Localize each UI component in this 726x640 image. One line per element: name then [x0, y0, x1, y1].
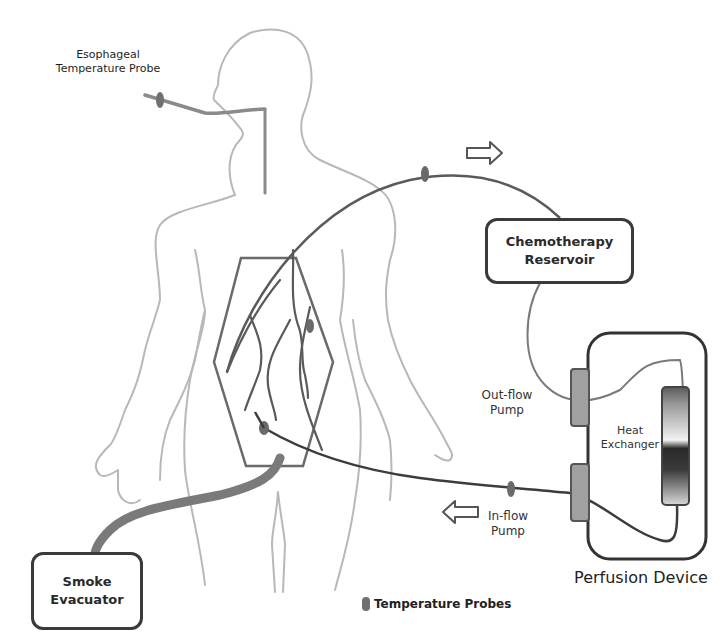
chemotherapy-reservoir-box[interactable]: Chemotherapy Reservoir	[485, 218, 634, 284]
inflow-pump-label-line2: Pump	[478, 524, 538, 539]
chemotherapy-reservoir-label: Chemotherapy Reservoir	[506, 233, 613, 268]
outflow-pump-label-line2: Pump	[472, 403, 542, 418]
esophageal-probe-label-line1: Esophageal	[38, 48, 178, 62]
outflow-pump-label: Out-flow Pump	[472, 388, 542, 418]
heat-exchanger-label-line1: Heat	[600, 424, 660, 438]
heat-exchanger-label-line2: Exchanger	[600, 438, 660, 452]
smoke-evacuator-line1: Smoke	[50, 573, 123, 591]
inflow-pump[interactable]	[571, 464, 589, 521]
outflow-pump-label-line1: Out-flow	[472, 388, 542, 403]
heat-exchanger-label: Heat Exchanger	[600, 424, 660, 452]
inflow-temperature-probe-marker	[507, 481, 515, 497]
outflow-direction-arrow	[467, 142, 502, 164]
chemo-reservoir-line2: Reservoir	[506, 251, 613, 269]
outflow-temperature-probe-marker	[421, 166, 429, 182]
temperature-probe-legend-icon	[362, 597, 370, 611]
inflow-pump-label-line1: In-flow	[478, 509, 538, 524]
esophageal-probe-label: Esophageal Temperature Probe	[38, 48, 178, 76]
chemo-reservoir-line1: Chemotherapy	[506, 233, 613, 251]
heat-exchanger[interactable]	[662, 387, 689, 505]
esophageal-temperature-probe-marker	[156, 92, 164, 108]
smoke-evacuator-label: Smoke Evacuator	[50, 573, 123, 608]
reservoir-to-pump-tubing	[528, 283, 684, 401]
smoke-evacuator-box[interactable]: Smoke Evacuator	[31, 552, 143, 630]
outflow-pump[interactable]	[571, 369, 589, 426]
legend: Temperature Probes	[362, 597, 511, 611]
esophageal-probe-label-line2: Temperature Probe	[38, 62, 178, 76]
intra-abdominal-catheters	[227, 250, 322, 450]
inflow-direction-arrow	[443, 501, 478, 523]
perfusion-device-label: Perfusion Device	[566, 568, 716, 588]
abdominal-temperature-probe-marker-upper	[306, 319, 314, 333]
esophageal-probe-tube	[145, 92, 265, 113]
legend-label: Temperature Probes	[374, 597, 511, 611]
inflow-pump-label: In-flow Pump	[478, 509, 538, 539]
smoke-evacuator-tube	[95, 458, 280, 555]
hipec-diagram	[0, 0, 726, 640]
smoke-evacuator-line2: Evacuator	[50, 591, 123, 609]
